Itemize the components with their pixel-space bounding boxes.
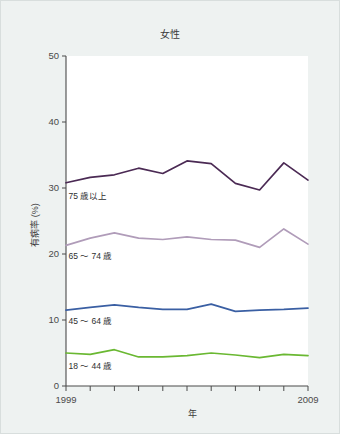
y-axis-tick-label: 20 — [48, 248, 59, 259]
series-label-1: 65 〜 74 歳 — [68, 251, 112, 261]
y-axis-tick-label: 50 — [48, 50, 59, 61]
x-axis-tick-label-last: 2009 — [297, 394, 318, 405]
y-axis-title: 有病率 (%) — [29, 203, 40, 247]
series-label-0: 75 歳以上 — [68, 191, 107, 201]
chart-figure: 女性 有病率 (%) 年 01020304050 19992009 75 歳以上… — [0, 0, 340, 434]
series-label-3: 18 〜 44 歳 — [68, 361, 112, 371]
x-axis-tick-label-first: 1999 — [55, 394, 76, 405]
y-axis-tick-label: 40 — [48, 116, 59, 127]
y-axis-tick-label: 30 — [48, 182, 59, 193]
y-axis-tick-label: 0 — [54, 380, 59, 391]
x-axis-title: 年 — [188, 408, 197, 419]
series-label-2: 45 〜 64 歳 — [68, 316, 112, 326]
plot-area-background — [66, 56, 308, 386]
x-axis: 19992009 — [55, 386, 318, 405]
line-chart-plot: 有病率 (%) 年 01020304050 19992009 75 歳以上65 … — [0, 0, 340, 434]
y-axis: 01020304050 — [48, 50, 66, 391]
y-axis-tick-label: 10 — [48, 314, 59, 325]
